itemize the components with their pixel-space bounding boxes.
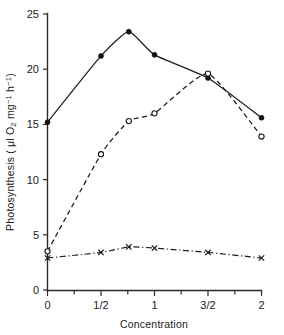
series-filled-circle-marker (152, 52, 157, 57)
x-ticklabel-half: 1/2 (93, 299, 108, 311)
series-filled-circle-marker (99, 53, 104, 58)
y-ticklabel-10: 10 (27, 174, 39, 186)
x-ticklabel-1: 1 (151, 299, 157, 311)
x-axis-ticklabels: 0 1/2 1 3/2 2 (44, 299, 264, 311)
y-ticklabel-15: 15 (27, 118, 39, 130)
photosynthesis-concentration-chart: 25 20 15 10 5 0 0 1/2 1 3/2 2 (0, 0, 284, 335)
y-ticklabel-25: 25 (27, 8, 39, 20)
data-series-layer (45, 29, 264, 261)
x-ticklabel-0: 0 (44, 299, 50, 311)
y-axis-title-unit-h: h (4, 86, 16, 95)
series-open-circle (45, 71, 264, 254)
figure-container: 25 20 15 10 5 0 0 1/2 1 3/2 2 (0, 0, 284, 335)
series-filled-circle-line (48, 32, 262, 123)
y-axis-title: Photosynthesis ( μl O2 mg−1 h−1) (4, 73, 18, 231)
y-axis-ticklabels: 25 20 15 10 5 0 (27, 8, 39, 296)
series-filled-circle-marker (45, 120, 50, 125)
x-axis-title: Concentration (120, 318, 188, 330)
y-ticklabel-0: 0 (33, 284, 39, 296)
y-axis-title-prefix: Photosynthesis ( (4, 147, 16, 231)
series-open-circle-marker (152, 111, 157, 116)
series-open-circle-marker (205, 71, 210, 76)
x-ticklabel-2: 2 (258, 299, 264, 311)
y-ticklabel-5: 5 (33, 229, 39, 241)
y-axis-title-sup-neg1-a: −1 (4, 95, 13, 104)
y-axis-title-sup-neg1-b: −1 (4, 77, 13, 86)
series-cross (45, 244, 264, 260)
svg-text:Photosynthesis ( μl O2 mg−1 h−: Photosynthesis ( μl O2 mg−1 h−1) (4, 73, 18, 231)
series-open-circle-marker (45, 249, 50, 254)
series-open-circle-marker (126, 118, 131, 123)
y-ticklabel-20: 20 (27, 63, 39, 75)
y-axis-title-unit-mg: mg (4, 104, 16, 122)
series-open-circle-marker (259, 134, 264, 139)
y-axis-title-unit-l: l O (4, 127, 16, 141)
series-open-circle-line (48, 74, 262, 252)
series-cross-marker (152, 245, 157, 250)
x-ticklabel-three-halves: 3/2 (200, 299, 215, 311)
x-axis-ticks-major (48, 291, 262, 297)
series-filled-circle-marker (126, 29, 131, 34)
y-axis-title-suffix: ) (4, 73, 16, 77)
series-filled-circle-marker (259, 115, 264, 120)
series-open-circle-marker (98, 152, 103, 157)
